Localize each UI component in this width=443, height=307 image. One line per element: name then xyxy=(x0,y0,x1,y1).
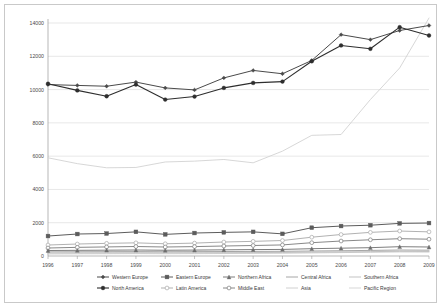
series-western-europe xyxy=(46,24,431,92)
data-point-marker xyxy=(398,25,402,29)
data-point-marker xyxy=(427,34,431,38)
y-axis-tick-label: 10000 xyxy=(30,87,45,93)
x-axis-tick-label: 2002 xyxy=(218,262,230,268)
data-point-marker xyxy=(368,238,372,242)
y-axis-tick-label: 0 xyxy=(41,253,44,259)
legend-label: Asia xyxy=(301,285,311,291)
y-axis-tick-label: 6000 xyxy=(32,153,44,159)
data-point-marker xyxy=(368,223,372,227)
data-point-marker xyxy=(310,235,314,239)
x-axis-tick-label: 2007 xyxy=(365,262,377,268)
legend-label: Western Europe xyxy=(112,274,148,280)
data-point-marker xyxy=(163,232,167,236)
legend-item-eastern-europe[interactable]: Eastern Europe xyxy=(161,274,211,280)
series-line xyxy=(48,27,429,99)
data-point-marker xyxy=(193,88,197,92)
data-point-marker xyxy=(398,237,402,241)
data-point-marker xyxy=(427,24,431,28)
x-axis-tick-label: 2001 xyxy=(189,262,201,268)
data-point-marker xyxy=(222,240,226,244)
x-axis-tick-label: 2004 xyxy=(277,262,289,268)
legend-item-western-europe[interactable]: Western Europe xyxy=(97,274,148,280)
data-point-marker xyxy=(227,286,231,290)
legend-item-northern-africa[interactable]: Northern Africa xyxy=(223,274,272,280)
legend-label: Southern Africa xyxy=(364,274,398,280)
legend-item-pacific-region[interactable]: Pacific Region xyxy=(349,285,396,291)
data-point-marker xyxy=(222,244,226,248)
data-point-marker xyxy=(46,234,50,238)
data-point-marker xyxy=(368,230,372,234)
data-point-marker xyxy=(251,244,255,248)
data-point-marker xyxy=(46,82,50,86)
legend-label: Pacific Region xyxy=(364,285,396,291)
data-point-marker xyxy=(251,239,255,243)
x-axis-tick-label: 2008 xyxy=(394,262,406,268)
legend-item-middle-east[interactable]: Middle East xyxy=(223,285,265,291)
data-point-marker xyxy=(75,232,79,236)
y-axis-tick-label: 4000 xyxy=(32,186,44,192)
legend-label: Northern Africa xyxy=(238,274,272,280)
data-point-marker xyxy=(251,69,255,73)
data-point-marker xyxy=(339,233,343,237)
data-point-marker xyxy=(339,239,343,243)
x-axis-tick-label: 2005 xyxy=(306,262,318,268)
x-axis-tick-label: 1996 xyxy=(42,262,54,268)
legend-item-north-america[interactable]: North America xyxy=(97,285,144,291)
data-point-marker xyxy=(101,275,105,279)
legend-item-central-africa[interactable]: Central Africa xyxy=(286,274,331,280)
legend-item-latin-america[interactable]: Latin America xyxy=(161,285,207,291)
data-point-marker xyxy=(310,226,314,230)
x-axis-tick-label: 2003 xyxy=(247,262,259,268)
data-point-marker xyxy=(427,230,431,234)
data-point-marker xyxy=(163,98,167,102)
data-point-marker xyxy=(101,286,105,290)
data-point-marker xyxy=(222,86,226,90)
series-line xyxy=(48,18,429,168)
chart-container: 0200040006000800010000120001400019961997… xyxy=(4,4,437,303)
series-eastern-europe xyxy=(46,221,431,238)
data-point-marker xyxy=(368,38,372,42)
data-point-marker xyxy=(163,86,167,90)
y-axis-tick-label: 14000 xyxy=(30,20,45,26)
x-axis-tick-label: 1997 xyxy=(72,262,84,268)
data-point-marker xyxy=(75,89,79,93)
legend-label: Middle East xyxy=(238,285,265,291)
data-point-marker xyxy=(281,243,285,247)
series-pacific-region xyxy=(48,18,429,168)
data-point-marker xyxy=(105,94,109,98)
data-point-marker xyxy=(222,230,226,234)
data-point-marker xyxy=(75,84,79,88)
legend-item-southern-africa[interactable]: Southern Africa xyxy=(349,274,398,280)
data-point-marker xyxy=(165,286,169,290)
series-line xyxy=(48,26,429,90)
data-point-marker xyxy=(427,221,431,225)
data-point-marker xyxy=(310,241,314,245)
data-point-marker xyxy=(281,80,285,84)
data-point-marker xyxy=(368,47,372,51)
data-point-marker xyxy=(105,232,109,236)
line-chart: 0200040006000800010000120001400019961997… xyxy=(5,5,438,304)
data-point-marker xyxy=(105,84,109,88)
data-point-marker xyxy=(427,237,431,241)
legend-label: Latin America xyxy=(176,285,207,291)
data-point-marker xyxy=(339,224,343,228)
y-axis-tick-label: 12000 xyxy=(30,53,45,59)
data-point-marker xyxy=(398,221,402,225)
data-point-marker xyxy=(193,95,197,99)
data-point-marker xyxy=(339,44,343,48)
data-point-marker xyxy=(222,76,226,80)
data-point-marker xyxy=(165,275,169,279)
x-axis-tick-label: 1999 xyxy=(130,262,142,268)
series-north-america xyxy=(46,25,431,101)
y-axis-tick-label: 8000 xyxy=(32,120,44,126)
data-point-marker xyxy=(134,241,138,245)
data-point-marker xyxy=(193,231,197,235)
x-axis-tick-label: 1998 xyxy=(101,262,113,268)
data-point-marker xyxy=(134,83,138,87)
data-point-marker xyxy=(310,59,314,63)
y-axis-tick-label: 2000 xyxy=(32,220,44,226)
data-point-marker xyxy=(134,230,138,234)
x-axis-tick-label: 2006 xyxy=(335,262,347,268)
legend-item-asia[interactable]: Asia xyxy=(286,285,311,291)
legend-label: North America xyxy=(112,285,144,291)
